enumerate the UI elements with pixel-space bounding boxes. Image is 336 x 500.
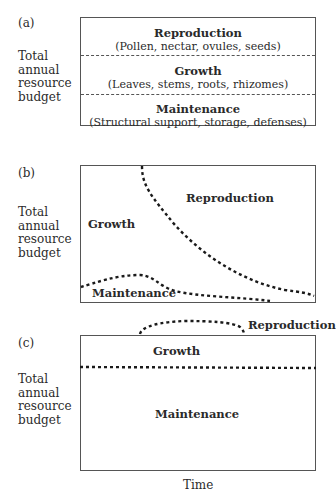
growth-maintenance-boundary [80,367,316,368]
reproduction-boundary [140,321,244,334]
reproduction-boundary [142,166,314,296]
maintenance-boundary [81,275,270,301]
